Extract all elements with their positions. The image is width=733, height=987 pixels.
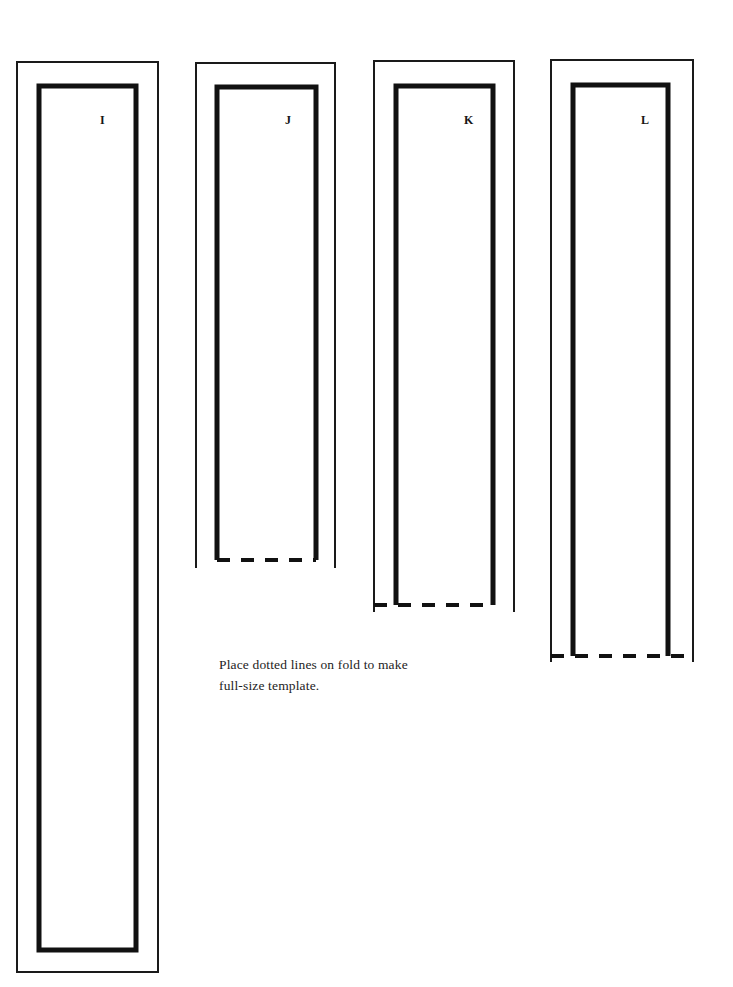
pattern-piece-k [374, 61, 514, 612]
piece-label-l: L [641, 114, 649, 126]
piece-j-inner-outline [217, 87, 316, 560]
piece-l-inner-outline [573, 85, 668, 656]
piece-label-i: I [100, 114, 105, 126]
piece-k-inner-outline [396, 86, 493, 605]
pattern-sheet-page: I J K L Place dotted lines on fold to ma… [0, 0, 733, 987]
pattern-piece-i [17, 62, 158, 972]
piece-i-inner-outline [39, 86, 136, 950]
piece-label-j: J [285, 114, 291, 126]
piece-label-k: K [464, 114, 474, 126]
fold-instruction-line-2: full-size template. [219, 676, 469, 697]
fold-instruction-note: Place dotted lines on fold to make full-… [219, 655, 469, 697]
pattern-piece-l [551, 60, 693, 662]
template-shapes-canvas [0, 0, 733, 987]
pattern-piece-j [196, 63, 335, 568]
fold-instruction-line-1: Place dotted lines on fold to make [219, 655, 469, 676]
